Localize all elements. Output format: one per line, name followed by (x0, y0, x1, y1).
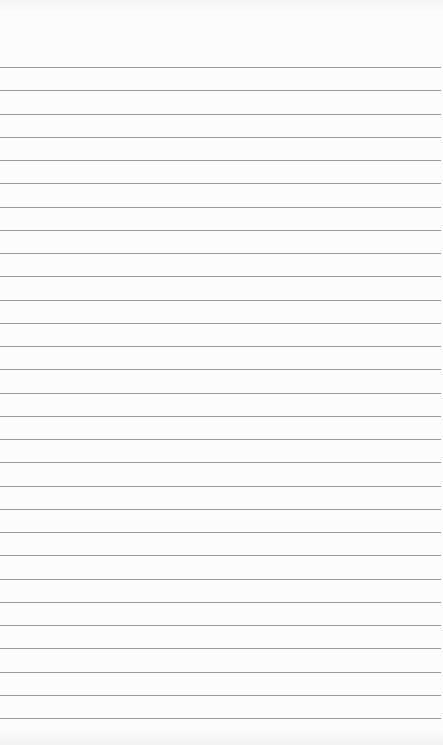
ruled-line (0, 416, 441, 417)
ruled-line (0, 300, 441, 301)
ruled-line (0, 207, 441, 208)
ruled-line (0, 253, 441, 254)
ruled-line (0, 532, 441, 533)
ruled-line (0, 393, 441, 394)
ruled-line (0, 276, 441, 277)
ruled-line (0, 439, 441, 440)
ruled-line (0, 462, 441, 463)
ruled-line (0, 672, 441, 673)
ruled-line (0, 323, 441, 324)
ruled-line (0, 230, 441, 231)
ruled-line (0, 486, 441, 487)
ruled-line (0, 579, 441, 580)
ruled-line (0, 346, 441, 347)
lined-paper-sheet (0, 0, 443, 745)
ruled-line (0, 648, 441, 649)
ruled-line (0, 137, 441, 138)
ruled-line (0, 509, 441, 510)
ruled-line (0, 183, 441, 184)
ruled-line (0, 695, 441, 696)
ruled-line (0, 160, 441, 161)
ruled-line (0, 369, 441, 370)
ruled-line (0, 602, 441, 603)
ruled-line (0, 555, 441, 556)
ruled-line (0, 114, 441, 115)
ruled-line (0, 625, 441, 626)
ruled-line (0, 90, 441, 91)
ruled-line (0, 718, 441, 719)
ruled-line (0, 67, 441, 68)
